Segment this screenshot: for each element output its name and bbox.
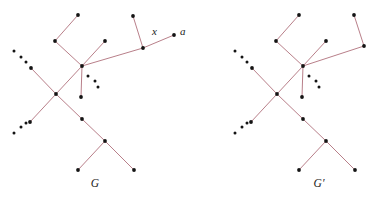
vertex-g-right-leaf: [103, 39, 107, 43]
ellipsis-dot: [13, 132, 16, 135]
vertex-p-left-chain-end: [250, 66, 254, 70]
edge-g-cross-to-g-mid-lower: [56, 94, 82, 119]
edge-p-a-to-p-a-pendant: [354, 15, 364, 46]
edge-p-hub-to-p-cross: [277, 66, 303, 94]
vertex-p-hub-pendant: [300, 95, 304, 99]
vertex-p-a: [362, 44, 366, 48]
vertex-p-fork-right-leaf: [353, 168, 357, 172]
edge-g-top-leaf-to-g-upper-left-node: [55, 15, 78, 41]
ellipsis-dot: [20, 126, 23, 129]
vertex-p-fork: [324, 139, 328, 143]
p-ellipsis-upper-left: [234, 50, 249, 64]
vertex-g-left-chain-end: [29, 66, 33, 70]
g-label-a: a: [180, 25, 186, 37]
vertex-p-lower-left-end: [249, 120, 253, 124]
ellipsis-dot: [97, 86, 100, 89]
edge-p-upper-left-node-to-p-hub: [276, 41, 303, 66]
ellipsis-dot: [13, 50, 16, 53]
vertex-p-a-pendant: [352, 13, 356, 17]
edge-p-mid-lower-to-p-fork: [303, 119, 326, 141]
ellipsis-dot: [234, 50, 237, 53]
edge-g-x-to-g-a: [143, 35, 174, 48]
vertex-p-right-leaf: [324, 39, 328, 43]
edge-p-cross-to-p-lower-left-end: [251, 94, 277, 122]
edge-g-hub-to-g-cross: [56, 66, 82, 94]
ellipsis-dot: [241, 56, 244, 59]
vertex-g-cross: [54, 92, 58, 96]
edge-g-cross-to-g-lower-left-end: [30, 94, 56, 122]
graph-g-prime: G′: [234, 13, 366, 189]
ellipsis-dot: [246, 122, 249, 125]
graph-g-caption: G: [91, 177, 100, 189]
edge-g-x-to-g-x-pendant: [133, 16, 143, 48]
g-ellipsis-hub-right: [87, 75, 100, 89]
ellipsis-dot: [308, 75, 311, 78]
g-label-x: x: [151, 25, 157, 37]
vertex-g-upper-left-node: [53, 39, 57, 43]
vertex-g-a: [172, 33, 176, 37]
edge-g-mid-lower-to-g-fork: [82, 119, 105, 141]
vertex-g-x-pendant: [131, 14, 135, 18]
vertex-p-hub: [301, 64, 305, 68]
edge-p-cross-to-p-mid-lower: [277, 94, 303, 119]
edge-g-left-chain-end-to-g-cross: [31, 68, 56, 94]
g-ellipsis-upper-left: [13, 50, 28, 64]
vertex-g-fork: [103, 139, 107, 143]
vertex-p-mid-lower: [301, 117, 305, 121]
graph-g: xaG: [13, 13, 187, 189]
vertex-g-fork-left-leaf: [76, 168, 80, 172]
edge-g-hub-to-g-x: [82, 48, 143, 66]
edge-p-hub-to-p-hub-pendant: [302, 66, 303, 97]
ellipsis-dot: [20, 56, 23, 59]
ellipsis-dot: [87, 75, 90, 78]
ellipsis-dot: [315, 80, 318, 83]
vertex-g-top-leaf: [76, 13, 80, 17]
edge-g-fork-to-g-fork-left-leaf: [78, 141, 105, 170]
vertex-g-mid-lower: [80, 117, 84, 121]
vertex-p-cross: [275, 92, 279, 96]
edge-p-fork-to-p-fork-right-leaf: [326, 141, 355, 170]
graph-g-prime-caption: G′: [314, 177, 325, 189]
ellipsis-dot: [94, 80, 97, 83]
graph-figure: xaGG′: [0, 0, 384, 208]
vertex-p-upper-left-node: [274, 39, 278, 43]
ellipsis-dot: [246, 61, 249, 64]
edge-p-fork-to-p-fork-left-leaf: [299, 141, 326, 170]
graph-g-prime-vertices: [249, 13, 366, 172]
vertex-g-x: [141, 46, 145, 50]
p-ellipsis-lower-left: [234, 122, 249, 135]
graph-g-edges: [30, 15, 174, 170]
graph-g-prime-edges: [251, 15, 364, 170]
vertex-p-top-leaf: [297, 13, 301, 17]
edge-g-hub-to-g-hub-pendant: [81, 66, 82, 97]
edge-g-upper-left-node-to-g-hub: [55, 41, 82, 66]
edge-g-fork-to-g-fork-right-leaf: [105, 141, 134, 170]
ellipsis-dot: [234, 132, 237, 135]
p-ellipsis-hub-right: [308, 75, 321, 89]
ellipsis-dot: [241, 126, 244, 129]
ellipsis-dot: [25, 61, 28, 64]
vertex-g-hub: [80, 64, 84, 68]
vertex-g-fork-right-leaf: [132, 168, 136, 172]
edge-p-left-chain-end-to-p-cross: [252, 68, 277, 94]
ellipsis-dot: [25, 122, 28, 125]
edge-p-top-leaf-to-p-upper-left-node: [276, 15, 299, 41]
graph-diagram-canvas: xaGG′: [0, 0, 384, 208]
vertex-p-fork-left-leaf: [297, 168, 301, 172]
vertex-g-lower-left-end: [28, 120, 32, 124]
vertex-g-hub-pendant: [79, 95, 83, 99]
g-ellipsis-lower-left: [13, 122, 28, 135]
ellipsis-dot: [318, 86, 321, 89]
